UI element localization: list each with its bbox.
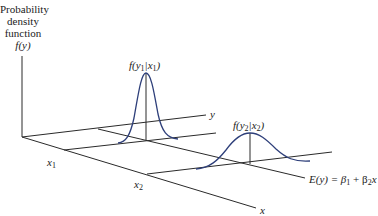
- x1-subscript: 1: [52, 161, 56, 170]
- fy-axis-title: Probability density function f(y): [0, 3, 46, 51]
- curve1-label-b: |x: [145, 59, 153, 71]
- curve2-label-c: ): [261, 119, 265, 131]
- curve1-label-c: ): [157, 59, 161, 71]
- x-axis-label: x: [260, 204, 265, 216]
- curve1-label: f(y1|x1): [129, 59, 160, 75]
- regression-line: [98, 129, 305, 178]
- x2-subscript: 2: [139, 183, 143, 192]
- curve1-label-a: f(y: [129, 59, 141, 71]
- axis-title-line4: f(y): [0, 39, 46, 51]
- curve2-label: f(y2|x2): [233, 119, 264, 135]
- x1-line: [64, 133, 216, 150]
- axis-title-line3: function: [0, 27, 46, 39]
- axis-title-line2: density: [0, 15, 46, 27]
- density-curve-2: [196, 133, 310, 169]
- density-curve-1: [118, 73, 178, 143]
- x1-label: x1: [47, 156, 56, 172]
- curve2-label-a: f(y: [233, 119, 245, 131]
- regression-label-a: E(y) = β: [309, 173, 346, 185]
- regression-label-c: x: [372, 173, 377, 185]
- y-axis-label: y: [210, 108, 215, 120]
- curve2-label-b: |x: [249, 119, 257, 131]
- x-axis: [22, 137, 256, 208]
- x2-label: x2: [134, 178, 143, 194]
- regression-label: E(y) = β1 + β2x: [309, 173, 377, 189]
- y-axis: [22, 115, 206, 137]
- axis-title-line1: Probability: [0, 3, 46, 15]
- regression-label-b: + β: [350, 173, 367, 185]
